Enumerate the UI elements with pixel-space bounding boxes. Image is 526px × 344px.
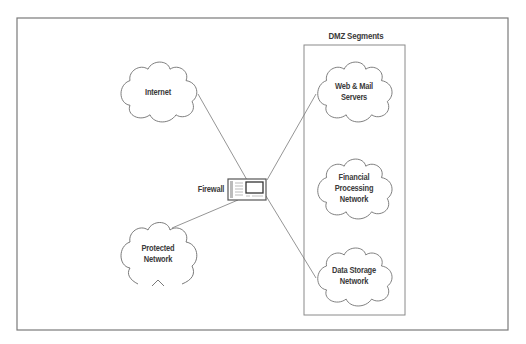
web-mail-servers-label: Web & Mail Servers [319, 81, 389, 103]
web-mail-servers-label-line1: Web & Mail [319, 81, 389, 92]
financial-label-line2: Processing [319, 183, 389, 194]
network-diagram: DMZ Segments Internet Protected Network … [0, 0, 526, 344]
data-storage-network-label: Data Storage Network [319, 265, 389, 287]
link-internet-firewall [198, 94, 247, 180]
outer-frame [17, 18, 508, 330]
firewall-appliance-icon [228, 179, 266, 200]
financial-label-line3: Network [319, 194, 389, 205]
link-firewall-webmail [267, 94, 316, 180]
firewall-label: Firewall [196, 184, 226, 195]
data-storage-label-line2: Network [319, 276, 389, 287]
protected-network-label-line1: Protected [123, 243, 193, 254]
link-firewall-protected [172, 200, 238, 228]
diagram-graphics [0, 0, 526, 344]
dmz-segments-title: DMZ Segments [323, 31, 390, 42]
internet-label: Internet [123, 87, 193, 98]
data-storage-label-line1: Data Storage [319, 265, 389, 276]
link-firewall-datastorage [266, 196, 316, 278]
financial-processing-network-label: Financial Processing Network [319, 172, 389, 205]
web-mail-servers-label-line2: Servers [319, 92, 389, 103]
protected-network-label: Protected Network [123, 243, 193, 265]
protected-network-label-line2: Network [123, 254, 193, 265]
financial-label-line1: Financial [319, 172, 389, 183]
